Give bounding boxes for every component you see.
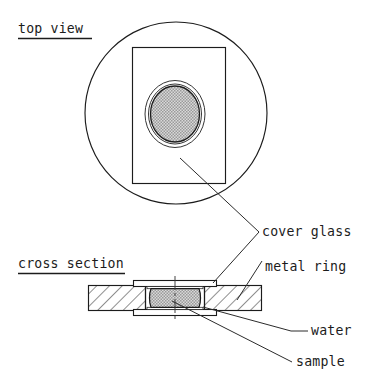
label-sample: sample bbox=[296, 354, 345, 369]
top-view-sample-disc bbox=[151, 86, 200, 142]
label-water: water bbox=[311, 323, 352, 338]
cross-section-metal-ring-right bbox=[205, 286, 262, 311]
top-view-heading: top view bbox=[18, 21, 83, 36]
specimen-holder-diagram: top view cross section bbox=[0, 0, 369, 389]
cross-section-heading: cross section bbox=[18, 256, 124, 271]
cross-section-metal-ring-left bbox=[89, 286, 146, 311]
label-metal-ring: metal ring bbox=[265, 259, 346, 274]
label-cover-glass: cover glass bbox=[262, 224, 352, 239]
